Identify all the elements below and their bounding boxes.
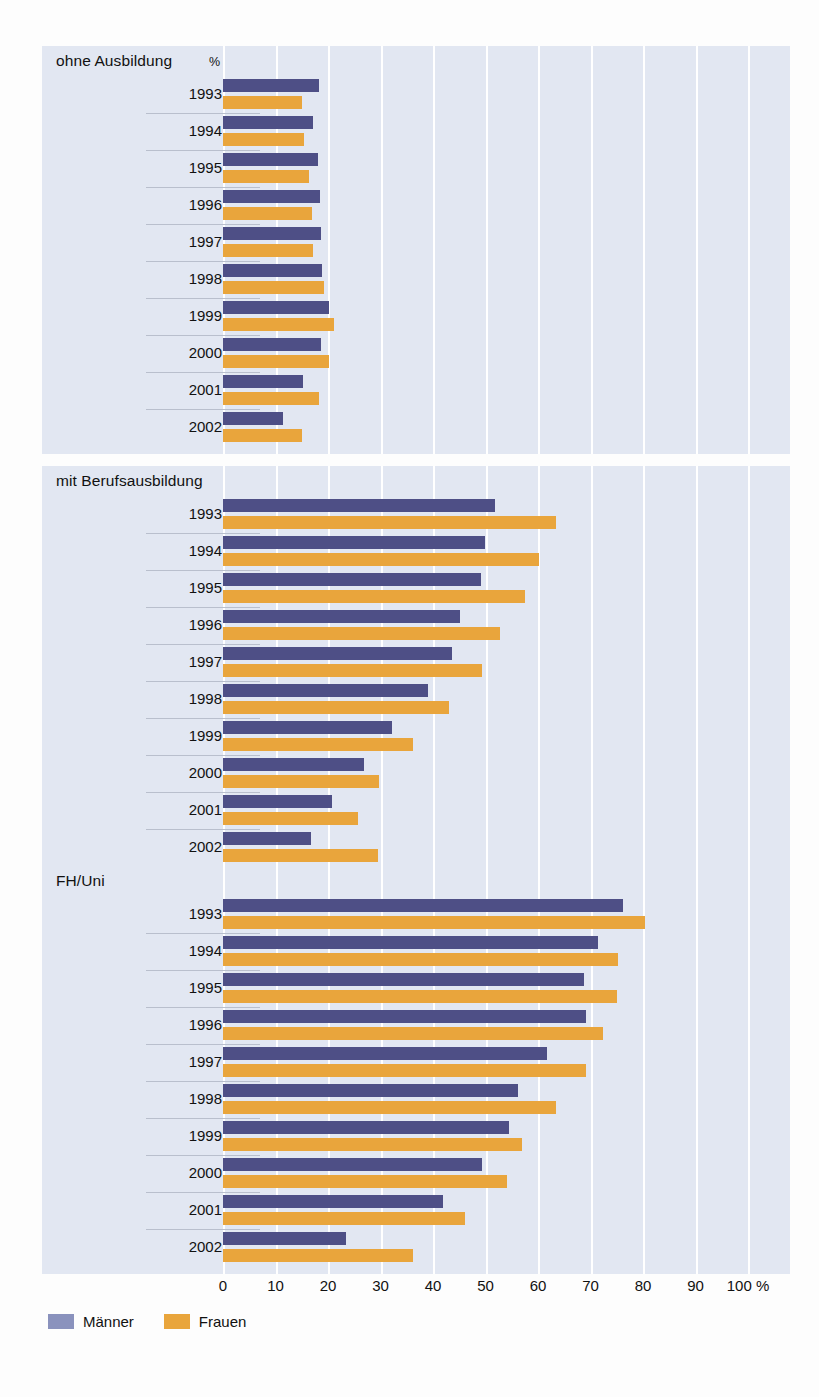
bar-frauen: [223, 990, 617, 1003]
chart-row: 200049,454,0: [42, 1155, 790, 1192]
legend-label: Männer: [83, 1313, 134, 1330]
chart-row: 199318,315,0: [42, 76, 790, 113]
bar-frauen: [223, 1138, 522, 1151]
bar-frauen: [223, 590, 525, 603]
chart-row: 199417,215,4: [42, 113, 790, 150]
bar-maenner: [223, 412, 283, 425]
bar-maenner: [223, 832, 311, 845]
bar-maenner: [223, 936, 598, 949]
chart-row: 200120,825,7: [42, 792, 790, 829]
chart-row: 199376,280,3: [42, 896, 790, 933]
bar-frauen: [223, 738, 413, 751]
legend-swatch-icon: [164, 1314, 190, 1329]
bar-maenner: [223, 301, 329, 314]
bar-frauen: [223, 318, 334, 331]
bar-maenner: [223, 721, 392, 734]
panel-title: mit Berufsausbildung: [56, 472, 203, 490]
bar-frauen: [223, 1101, 556, 1114]
chart-row: 199920,221,2: [42, 298, 790, 335]
x-axis: 0102030405060708090100 %: [0, 1277, 819, 1303]
bar-maenner: [223, 684, 428, 697]
panel-title: ohne Ausbildung: [56, 52, 172, 70]
bar-maenner: [223, 899, 623, 912]
bar-maenner: [223, 1158, 482, 1171]
chart-row: 199954,457,0: [42, 1118, 790, 1155]
panel-unit-label: %: [209, 55, 220, 69]
panel-title: FH/Uni: [56, 872, 105, 890]
chart-row: 199568,875,1: [42, 970, 790, 1007]
chart-row: 199932,236,1: [42, 718, 790, 755]
bar-maenner: [223, 647, 452, 660]
bar-maenner: [223, 227, 321, 240]
legend-label: Frauen: [199, 1313, 247, 1330]
chart-row: 200026,929,8: [42, 755, 790, 792]
chart-panel: FH/Uni199376,280,3199471,475,3199568,875…: [42, 866, 790, 1274]
chart-row: 200211,515,1: [42, 409, 790, 446]
bar-maenner: [223, 1084, 518, 1097]
chart-legend: MännerFrauen: [48, 1313, 265, 1330]
bar-frauen: [223, 170, 309, 183]
x-axis-tick-label: 20: [320, 1277, 337, 1294]
chart-figure: ohne Ausbildung%199318,315,0199417,215,4…: [0, 0, 819, 1397]
bar-maenner: [223, 1010, 586, 1023]
panel-rows: 199376,280,3199471,475,3199568,875,11996…: [42, 896, 790, 1266]
chart-row: 199856,263,5: [42, 1081, 790, 1118]
x-axis-tick-label: 80: [635, 1277, 652, 1294]
bar-frauen: [223, 1175, 507, 1188]
chart-row: 199761,869,2: [42, 1044, 790, 1081]
chart-row: 199718,617,2: [42, 224, 790, 261]
bar-frauen: [223, 96, 302, 109]
bar-frauen: [223, 1212, 465, 1225]
chart-panel: mit Berufsausbildung199351,963,4199449,9…: [42, 466, 790, 874]
x-axis-tick-label: 10: [267, 1277, 284, 1294]
chart-row: 199549,257,5: [42, 570, 790, 607]
chart-row: 199818,819,2: [42, 261, 790, 298]
bar-frauen: [223, 775, 379, 788]
chart-row: 199669,272,4: [42, 1007, 790, 1044]
bar-frauen: [223, 812, 358, 825]
bar-frauen: [223, 627, 500, 640]
bar-frauen: [223, 244, 313, 257]
chart-row: 200141,946,0: [42, 1192, 790, 1229]
chart-row: 199645,152,7: [42, 607, 790, 644]
x-axis-tick-label: 30: [372, 1277, 389, 1294]
bar-frauen: [223, 953, 618, 966]
chart-row: 200018,720,2: [42, 335, 790, 372]
bar-maenner: [223, 973, 584, 986]
legend-swatch-icon: [48, 1314, 74, 1329]
bar-frauen: [223, 1064, 586, 1077]
chart-row: 199518,016,3: [42, 150, 790, 187]
bar-frauen: [223, 207, 312, 220]
chart-panel: ohne Ausbildung%199318,315,0199417,215,4…: [42, 46, 790, 454]
bar-frauen: [223, 1027, 603, 1040]
bar-maenner: [223, 795, 332, 808]
bar-maenner: [223, 1232, 346, 1245]
bar-maenner: [223, 79, 319, 92]
bar-frauen: [223, 553, 539, 566]
bar-maenner: [223, 1195, 443, 1208]
bar-maenner: [223, 153, 318, 166]
x-axis-tick-label: 90: [687, 1277, 704, 1294]
bar-frauen: [223, 701, 449, 714]
bar-maenner: [223, 1121, 509, 1134]
chart-row: 199449,960,2: [42, 533, 790, 570]
x-axis-tick-label: 50: [477, 1277, 494, 1294]
x-axis-tick-label: 60: [530, 1277, 547, 1294]
bar-maenner: [223, 1047, 547, 1060]
legend-item: Frauen: [164, 1313, 247, 1330]
legend-item: Männer: [48, 1313, 134, 1330]
chart-row: 199618,517,0: [42, 187, 790, 224]
bar-maenner: [223, 375, 303, 388]
x-axis-tick-label: 100 %: [727, 1277, 770, 1294]
bar-maenner: [223, 116, 313, 129]
bar-maenner: [223, 573, 481, 586]
chart-row: 199839,143,0: [42, 681, 790, 718]
bar-maenner: [223, 338, 321, 351]
x-axis-tick-label: 0: [219, 1277, 227, 1294]
bar-frauen: [223, 916, 645, 929]
bar-frauen: [223, 516, 556, 529]
panel-rows: 199318,315,0199417,215,4199518,016,31996…: [42, 76, 790, 446]
bar-frauen: [223, 392, 319, 405]
bar-maenner: [223, 264, 322, 277]
chart-row: 199743,749,4: [42, 644, 790, 681]
